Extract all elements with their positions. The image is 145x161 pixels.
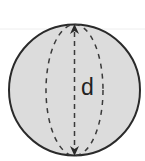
sphere-svg [0,0,145,161]
diameter-label: d [81,74,94,100]
sphere-diagram: d [0,0,145,161]
